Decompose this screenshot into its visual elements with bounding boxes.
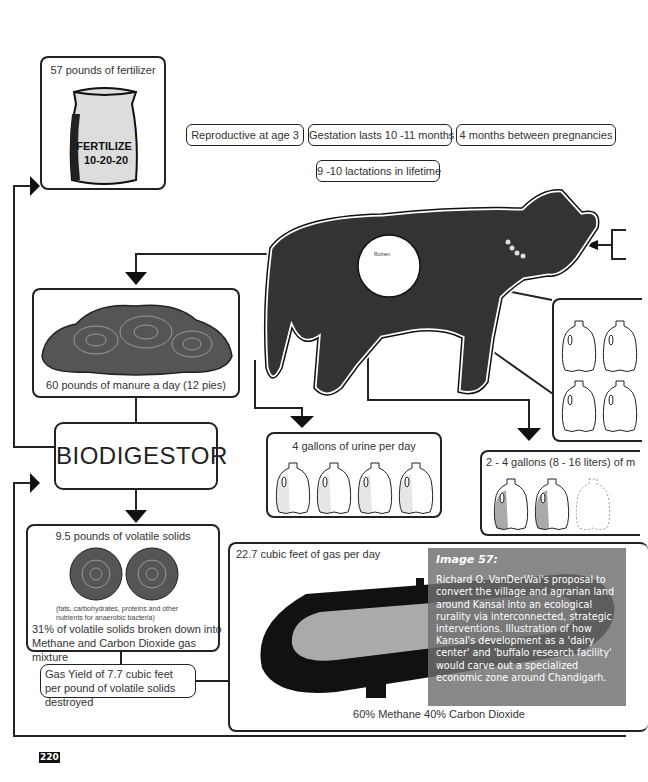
rumen-label: Rumen <box>374 251 390 257</box>
milk-jug-row <box>560 318 642 374</box>
jug-icon <box>274 460 312 516</box>
manure-box: 60 pounds of manure a day (12 pies) <box>32 288 240 398</box>
rumen-cutaway <box>358 235 420 297</box>
gas-tank-label: 22.7 cubic feet of gas per day <box>236 548 380 560</box>
volatile-solids-box: 9.5 pounds of volatile solids (fats, car… <box>26 524 220 652</box>
milk-label: 2 - 4 gallons (8 - 16 liters) of m <box>482 456 640 468</box>
fertilizer-bag-text-2: 10-20-20 <box>84 154 128 166</box>
fertilizer-bag-text-1: FERTILIZE <box>76 140 132 152</box>
caption-body: Richard O. VanDerWal's proposal to conve… <box>436 574 620 684</box>
gas-composition-label: 60% Methane 40% Carbon Dioxide <box>230 708 648 720</box>
manure-label: 60 pounds of manure a day (12 pies) <box>34 379 238 391</box>
volatile-solids-icon <box>64 546 184 602</box>
volatile-solids-breakdown: 31% of volatile solids broken down into … <box>32 622 222 664</box>
milk-storage-box <box>552 298 642 442</box>
urine-jugs <box>274 460 438 520</box>
jug-icon <box>601 378 639 434</box>
milk-box: 2 - 4 gallons (8 - 16 liters) of m <box>480 450 640 536</box>
milk-jugs <box>492 476 615 536</box>
jug-icon <box>397 460 435 516</box>
image-caption: Image 57: Richard O. VanDerWal's proposa… <box>428 548 626 706</box>
urine-label: 4 gallons of urine per day <box>268 440 440 452</box>
gas-yield-box: Gas Yield of 7.7 cubic feet per pound of… <box>40 664 196 698</box>
empty-jug-icon <box>574 476 612 532</box>
jug-icon <box>601 318 639 374</box>
fact-reproductive-age: Reproductive at age 3 <box>186 124 304 146</box>
milk-jug-grid <box>560 318 642 438</box>
volatile-solids-label: 9.5 pounds of volatile solids <box>28 530 218 542</box>
biodigestor-label: BIODIGESTOR <box>56 424 216 488</box>
volatile-solids-note: (fats, carbohydrates, proteins and other… <box>56 604 196 622</box>
jug-icon <box>560 378 598 434</box>
gas-yield-label: Gas Yield of 7.7 cubic feet per pound of… <box>41 665 195 711</box>
manure-pile-icon <box>36 296 236 376</box>
jug-icon <box>533 476 571 532</box>
page-number: 220 <box>39 752 60 763</box>
fertilizer-bag-icon: FERTILIZE 10-20-20 <box>64 84 144 188</box>
fertilizer-label: 57 pounds of fertilizer <box>42 64 164 76</box>
jug-icon <box>492 476 530 532</box>
fact-gestation: Gestation lasts 10 -11 months <box>308 124 452 146</box>
caption-title: Image 57: <box>436 554 620 566</box>
jug-icon <box>315 460 353 516</box>
jug-icon <box>560 318 598 374</box>
milk-jug-row <box>560 378 642 434</box>
fertilizer-box: 57 pounds of fertilizer FERTILIZE 10-20-… <box>40 56 166 190</box>
fact-pregnancy-interval: 4 months between pregnancies <box>456 124 616 146</box>
fact-lactations: 9 -10 lactations in lifetime <box>316 160 440 182</box>
jug-icon <box>356 460 394 516</box>
biodigestor-box: BIODIGESTOR <box>54 422 218 490</box>
urine-box: 4 gallons of urine per day <box>266 432 442 518</box>
